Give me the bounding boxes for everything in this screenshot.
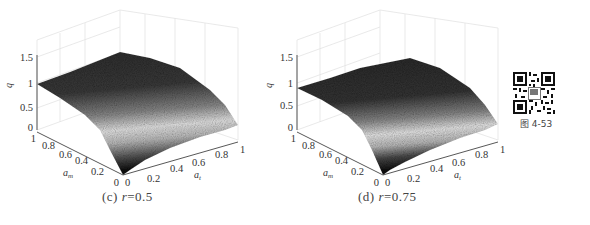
am-tick: 1 (291, 133, 296, 144)
caption-d: (d) r=0.75 (358, 189, 417, 205)
at-tick: 1 (240, 144, 245, 155)
z-tick: 0.5 (280, 100, 293, 111)
at-tick: 0.6 (192, 157, 205, 168)
am-axis-label: am (63, 167, 73, 180)
am-tick: 0.4 (335, 155, 349, 166)
at-axis-label: at (454, 169, 462, 182)
z-tick: 1 (288, 78, 293, 89)
at-tick: 0.8 (475, 149, 488, 160)
am-tick: 1 (31, 133, 36, 144)
am-tick: 0.2 (91, 166, 104, 177)
am-tick: 0.2 (351, 166, 364, 177)
qr-caption: 图 4-53 (520, 117, 552, 130)
at-tick: 0.6 (452, 157, 465, 168)
at-tick: 0.2 (407, 173, 420, 184)
am-tick: 0.4 (75, 155, 89, 166)
am-tick: 0 (114, 177, 119, 188)
z-tick: 1 (28, 78, 33, 89)
z-tick: 1.5 (20, 52, 33, 63)
am-tick: 0.6 (59, 149, 72, 160)
at-tick: 0 (125, 177, 130, 188)
z-axis-label: q (3, 83, 14, 88)
am-tick: 0 (374, 177, 379, 188)
z-tick: 0.5 (20, 102, 33, 113)
at-tick: 0.8 (215, 149, 228, 160)
at-tick: 0.4 (430, 163, 444, 174)
am-tick: 0.8 (302, 140, 315, 151)
at-axis-label: at (194, 169, 202, 182)
z-axis-label: q (263, 83, 274, 88)
at-tick: 0.2 (147, 173, 160, 184)
chart-panel-c: 0 0.5 1 1.5 q 0 0.2 0.4 0.6 0.8 1 am 0 0… (0, 0, 260, 225)
chart-panel-d: 0 0.5 1 1.5 q 0 0.2 0.4 0.6 0.8 1 am 0 0… (260, 0, 520, 225)
am-axis-label: am (323, 167, 333, 180)
at-tick: 0 (385, 177, 390, 188)
z-tick: 1.5 (280, 52, 293, 63)
z-tick: 0 (288, 122, 293, 133)
z-tick: 0 (28, 122, 33, 133)
am-tick: 0.8 (42, 140, 55, 151)
caption-c: (c) r=0.5 (102, 189, 153, 205)
am-tick: 0.6 (319, 149, 332, 160)
at-tick: 1 (500, 144, 505, 155)
qr-code-icon[interactable] (513, 72, 555, 114)
at-tick: 0.4 (170, 163, 184, 174)
